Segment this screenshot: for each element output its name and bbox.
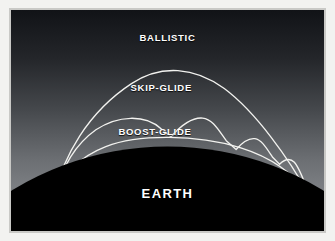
figure-frame: BALLISTIC SKIP-GLIDE BOOST-GLIDE EARTH <box>9 8 326 233</box>
trajectory-diagram <box>11 10 324 231</box>
figure-plate: BALLISTIC SKIP-GLIDE BOOST-GLIDE EARTH <box>11 10 324 231</box>
